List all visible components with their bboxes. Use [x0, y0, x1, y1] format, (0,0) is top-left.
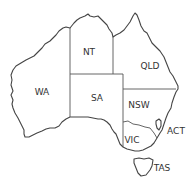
region-label-sa: SA [91, 94, 103, 103]
region-label-qld: QLD [140, 62, 159, 71]
tasmania-outline [134, 158, 153, 176]
region-label-wa: WA [35, 88, 50, 97]
region-label-act: ACT [167, 127, 185, 136]
region-label-nsw: NSW [128, 101, 149, 110]
region-label-nt: NT [83, 48, 95, 57]
region-label-vic: VIC [124, 136, 139, 145]
act-outline [156, 119, 161, 130]
region-label-tas: TAS [154, 164, 171, 173]
mainland-outline [11, 13, 178, 151]
